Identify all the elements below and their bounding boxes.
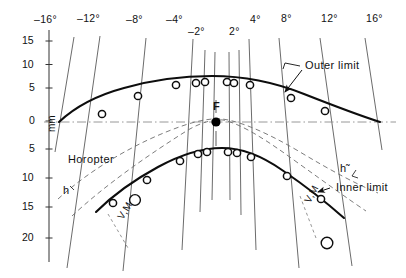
inner-limit-label: Inner limit xyxy=(336,182,388,193)
horopter-label: Horopter xyxy=(68,154,114,165)
data-point xyxy=(247,153,254,160)
y-tick-label: 15 xyxy=(22,35,34,46)
data-point xyxy=(172,81,179,88)
x-label-12: 12° xyxy=(321,13,338,24)
data-point xyxy=(317,195,324,202)
data-point xyxy=(98,110,105,117)
data-point xyxy=(176,157,183,164)
data-point xyxy=(283,172,290,179)
x-label-2: 2° xyxy=(229,26,240,37)
inner-limit-curve xyxy=(96,148,344,218)
diagram-canvas xyxy=(0,0,406,278)
data-point xyxy=(230,79,237,86)
data-point xyxy=(134,92,141,99)
y-tick-label: 15 xyxy=(22,201,34,212)
data-point xyxy=(143,176,150,183)
outer-limit-curve xyxy=(59,76,380,122)
data-point xyxy=(224,148,231,155)
x-label--2: –2° xyxy=(188,26,205,37)
data-point xyxy=(233,149,240,156)
data-point xyxy=(192,79,199,86)
h-tilde-tick xyxy=(352,170,358,178)
h-left-label: h xyxy=(63,185,69,196)
data-point xyxy=(201,78,208,85)
data-point xyxy=(287,94,294,101)
y-tick-label: 5 xyxy=(29,82,35,93)
data-point xyxy=(203,148,210,155)
x-label-16: 16° xyxy=(366,13,383,24)
data-point xyxy=(321,107,328,114)
data-point xyxy=(109,199,116,206)
data-point xyxy=(223,78,230,85)
outer-limit-label: Outer limit xyxy=(305,60,360,71)
x-label--16: –16° xyxy=(34,14,57,25)
y-tick-label: 5 xyxy=(29,143,35,154)
y-axis xyxy=(46,30,53,262)
y-tick-label: 10 xyxy=(22,172,34,183)
y-tick-label: 20 xyxy=(22,232,34,243)
x-label--12: –12° xyxy=(77,13,100,24)
outer-limit-leader xyxy=(283,63,300,69)
data-point xyxy=(246,81,253,88)
x-label-4: 4° xyxy=(250,14,261,25)
figure-root: 15 10 5 0 5 10 15 20 mm –16° –12° –8° –4… xyxy=(0,0,406,278)
y-tick-label: 0 xyxy=(29,115,35,126)
x-label--4: –4° xyxy=(166,14,183,25)
y-tick-label: 10 xyxy=(22,59,34,70)
x-label--8: –8° xyxy=(126,14,143,25)
y-axis-unit-label: mm xyxy=(47,115,57,132)
outlier-point-right xyxy=(321,237,333,249)
x-label-8: 8° xyxy=(281,13,292,24)
data-point xyxy=(194,150,201,157)
fixation-label: F xyxy=(213,101,220,112)
h-tilde-label: h˜ xyxy=(340,163,350,174)
